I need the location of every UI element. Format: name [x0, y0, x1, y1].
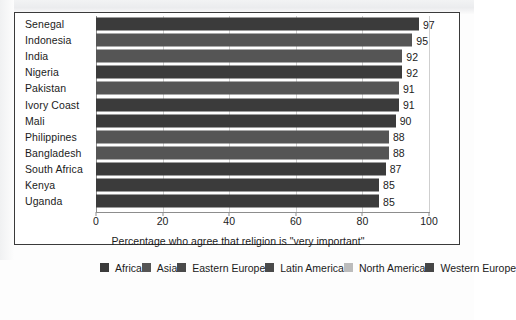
- bar-category-label: Bangladesh: [25, 147, 81, 159]
- chart-legend: AfricaAsiaEastern EuropeLatin AmericaNor…: [14, 258, 460, 300]
- bar: [96, 66, 402, 79]
- legend-swatch-icon: [265, 263, 274, 272]
- bar-value-label: 95: [416, 34, 428, 46]
- legend-swatch-icon: [177, 263, 186, 272]
- x-tick-label-60: 60: [290, 215, 302, 227]
- bar-category-label: Philippines: [25, 131, 77, 143]
- x-tick-label-80: 80: [357, 215, 369, 227]
- bar-track: 87: [96, 162, 429, 175]
- bar-track: 97: [96, 18, 429, 31]
- bar-row: Bangladesh88: [15, 145, 461, 161]
- bar-track: 91: [96, 98, 429, 111]
- legend-label: Eastern Europe: [192, 262, 265, 274]
- bar-track: 90: [96, 114, 429, 127]
- bar-row: Nigeria92: [15, 64, 461, 80]
- bar-category-label: Kenya: [25, 179, 55, 191]
- legend-item-western-europe: Western Europe: [425, 258, 516, 277]
- bar-value-label: 85: [383, 179, 395, 191]
- bar-row: Kenya85: [15, 177, 461, 193]
- x-axis-title: Percentage who agree that religion is "v…: [15, 235, 461, 247]
- bar-track: 92: [96, 66, 429, 79]
- bar-value-label: 92: [406, 50, 418, 62]
- bar-value-label: 91: [403, 99, 415, 111]
- bar-row: Indonesia95: [15, 32, 461, 48]
- chart-panel: Senegal97Indonesia95India92Nigeria92Paki…: [14, 12, 460, 245]
- bar-category-label: Ivory Coast: [25, 99, 79, 111]
- bar: [96, 130, 389, 143]
- bar-value-label: 90: [400, 115, 412, 127]
- bar-row: Pakistan91: [15, 80, 461, 96]
- bar-value-label: 87: [390, 163, 402, 175]
- bar-category-label: Nigeria: [25, 66, 59, 78]
- x-tick-label-0: 0: [93, 215, 99, 227]
- bar-track: 95: [96, 34, 429, 47]
- bar-category-label: Pakistan: [25, 82, 66, 94]
- legend-label: Asia: [157, 262, 177, 274]
- bar-row: Senegal97: [15, 16, 461, 32]
- bar-row: India92: [15, 48, 461, 64]
- x-axis-line: [96, 212, 430, 213]
- legend-item-asia: Asia: [142, 258, 177, 277]
- bar-value-label: 92: [406, 66, 418, 78]
- bar-value-label: 97: [423, 18, 435, 30]
- scan-artifact-left: [0, 0, 14, 260]
- x-tick-label-20: 20: [157, 215, 169, 227]
- legend-swatch-icon: [100, 263, 109, 272]
- x-axis-tick-labels: 020406080100: [96, 215, 429, 231]
- bar-value-label: 88: [393, 131, 405, 143]
- bar-row: Philippines88: [15, 129, 461, 145]
- bar: [96, 82, 399, 95]
- legend-swatch-icon: [344, 263, 353, 272]
- bar: [96, 114, 396, 127]
- bar-row: Mali90: [15, 113, 461, 129]
- bar: [96, 146, 389, 159]
- bar: [96, 34, 412, 47]
- bar-category-label: India: [25, 50, 48, 62]
- bar-track: 92: [96, 50, 429, 63]
- legend-item-latin-america: Latin America: [265, 258, 344, 277]
- legend-swatch-icon: [425, 263, 434, 272]
- bar: [96, 98, 399, 111]
- bar-track: 85: [96, 195, 429, 208]
- bar-category-label: Uganda: [25, 195, 62, 207]
- legend-label: Western Europe: [440, 262, 516, 274]
- bar-track: 88: [96, 130, 429, 143]
- bar-row: Ivory Coast91: [15, 96, 461, 112]
- x-tick-label-100: 100: [420, 215, 438, 227]
- bar: [96, 195, 379, 208]
- bar-category-label: South Africa: [25, 163, 83, 175]
- legend-item-africa: Africa: [100, 258, 142, 277]
- bar: [96, 18, 419, 31]
- bar: [96, 178, 379, 191]
- legend-item-eastern-europe: Eastern Europe: [177, 258, 265, 277]
- bar-track: 91: [96, 82, 429, 95]
- bar-track: 88: [96, 146, 429, 159]
- bar-value-label: 85: [383, 195, 395, 207]
- bar-value-label: 91: [403, 82, 415, 94]
- legend-label: Africa: [115, 262, 142, 274]
- legend-item-north-america: North America: [344, 258, 426, 277]
- bar-track: 85: [96, 178, 429, 191]
- legend-label: Latin America: [280, 262, 344, 274]
- x-tick-label-40: 40: [223, 215, 235, 227]
- bar-category-label: Indonesia: [25, 34, 71, 46]
- bar-row: South Africa87: [15, 161, 461, 177]
- legend-label: North America: [359, 262, 426, 274]
- bar-row: Uganda85: [15, 193, 461, 209]
- bar: [96, 162, 386, 175]
- bar-category-label: Senegal: [25, 18, 64, 30]
- bar-rows: Senegal97Indonesia95India92Nigeria92Paki…: [15, 16, 461, 212]
- legend-swatch-icon: [142, 263, 151, 272]
- bar-category-label: Mali: [25, 115, 45, 127]
- bar: [96, 50, 402, 63]
- bar-value-label: 88: [393, 147, 405, 159]
